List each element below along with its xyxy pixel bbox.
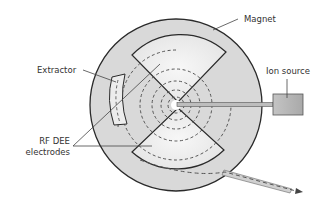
leader-magnet <box>213 19 238 30</box>
label-rf-dee-line1: RF DEE <box>37 136 70 146</box>
beam-arrow-icon <box>295 188 303 194</box>
label-extractor: Extractor <box>37 65 76 75</box>
cyclotron-diagram <box>0 0 329 214</box>
label-rf-dee-line2: electrodes <box>18 147 70 157</box>
ion-source-feed <box>177 103 273 107</box>
label-magnet: Magnet <box>244 14 276 24</box>
ion-source-box <box>273 94 303 115</box>
beam-exit-tube <box>222 170 292 193</box>
label-ion-source: Ion source <box>266 66 310 76</box>
